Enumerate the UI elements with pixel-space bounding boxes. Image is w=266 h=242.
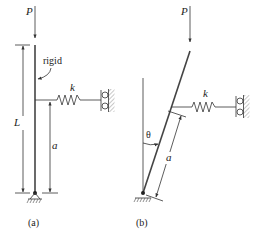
rigid-label: rigid	[43, 55, 62, 66]
panel-b: P θ k a (b)	[134, 5, 250, 229]
roller-bottom-a	[102, 103, 108, 109]
spring-b	[192, 102, 215, 112]
ground-hatch-b	[134, 198, 151, 202]
theta-label: θ	[146, 129, 151, 140]
load-label-a: P	[25, 5, 33, 17]
a-label-a: a	[52, 139, 58, 151]
a-tick-top-b	[168, 111, 186, 117]
caption-a: (a)	[28, 217, 39, 229]
theta-arc	[143, 143, 158, 145]
panel-a: P rigid L a k	[12, 5, 115, 229]
wall-hatch-a	[109, 89, 115, 112]
spring-a	[57, 95, 80, 105]
load-label-b: P	[180, 5, 188, 17]
a-label-b: a	[166, 151, 172, 163]
spring-label-b: k	[203, 87, 209, 99]
rigid-leader-arrow	[38, 68, 51, 79]
buckling-diagram: P rigid L a k	[0, 0, 266, 242]
L-label: L	[13, 116, 20, 128]
spring-label-a: k	[70, 81, 76, 93]
roller-top-b	[237, 98, 243, 104]
roller-bottom-b	[237, 109, 243, 115]
rigid-column-b	[143, 51, 190, 193]
caption-b: (b)	[136, 217, 148, 229]
ground-hatch-a	[27, 199, 41, 203]
pin-b	[141, 191, 145, 195]
wall-hatch-b	[244, 95, 250, 118]
roller-top-a	[102, 92, 108, 98]
